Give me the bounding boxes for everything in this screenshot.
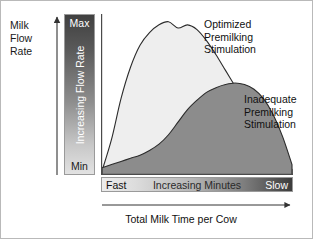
x-axis-gradient-ramp: Fast Increasing Minutes Slow	[101, 177, 293, 192]
y-axis-caption-line-1: Milk	[10, 19, 54, 32]
x-axis-ramp-label: Increasing Minutes	[102, 179, 292, 191]
callout-optimized-line-3: Stimulation	[204, 43, 256, 56]
y-axis-max-label: Max	[65, 17, 94, 29]
callout-optimized-line-2: Premilking	[204, 31, 256, 44]
y-axis-caption-line-3: Rate	[10, 45, 54, 58]
callout-inadequate-line-2: Premilking	[244, 106, 297, 119]
callout-inadequate-line-1: Inadequate	[244, 93, 297, 106]
x-axis-slow-label: Slow	[265, 179, 288, 191]
y-axis-caption: Milk Flow Rate	[10, 19, 54, 58]
y-axis-caption-line-2: Flow	[10, 32, 54, 45]
x-axis-caption: Total Milk Time per Cow	[61, 213, 301, 225]
callout-optimized: Optimized Premilking Stimulation	[204, 18, 256, 56]
chart-figure: Milk Flow Rate Max Increasing Flow Rate …	[0, 0, 313, 239]
y-axis-gradient-ramp: Max Increasing Flow Rate Min	[64, 14, 95, 175]
callout-optimized-line-1: Optimized	[204, 18, 256, 31]
y-axis-ramp-label: Increasing Flow Rate	[74, 45, 86, 144]
callout-inadequate-line-3: Stimulation	[244, 118, 297, 131]
y-axis-min-label: Min	[65, 160, 94, 172]
callout-inadequate: Inadequate Premilking Stimulation	[244, 93, 297, 131]
